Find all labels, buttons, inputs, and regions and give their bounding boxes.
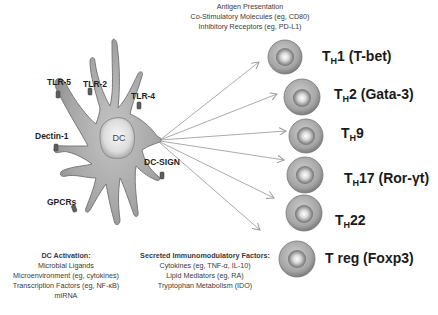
tlr2-receptor	[88, 88, 92, 95]
tcell-prefix: T	[334, 86, 343, 102]
tcell-prefix: T	[344, 170, 353, 186]
tcell-suffix: 9	[356, 125, 364, 141]
dcsign-receptor	[160, 172, 164, 179]
tcell-label-th1: TH1 (T-bet)	[322, 48, 392, 66]
dc-activation-line: miRNA	[0, 291, 132, 301]
th22-cell	[286, 195, 322, 231]
dc-activation-title: DC Activation:	[0, 251, 132, 261]
tcell-suffix: 17 (Ror-γt)	[359, 170, 429, 186]
receptor-label-dectin1: Dectin-1	[35, 131, 69, 141]
tcell-label-treg: T reg (Foxp3)	[325, 250, 414, 266]
receptor-label-tlr4: TLR-4	[131, 91, 155, 101]
receptor-label-tlr2: TLR-2	[83, 79, 107, 89]
dc-outputs-text: Antigen Presentation Co-Stimulatory Mole…	[160, 2, 340, 32]
tcell-prefix: T reg (Foxp3)	[325, 250, 414, 266]
tcell-suffix: 22	[350, 212, 366, 228]
secreted-factors-title: Secreted Immunomodulatory Factors:	[130, 251, 280, 261]
tcell-label-th2: TH2 (Gata-3)	[334, 86, 414, 104]
th17-cell	[287, 157, 323, 193]
tcell-label-th22: TH22	[335, 212, 366, 230]
dc-output-line: Co-Stimulatory Molecules (eg, CD80)	[160, 12, 340, 22]
secreted-factors-line: Lipid Mediators (eg, RA)	[130, 271, 280, 281]
dc-activation-line: Transcription Factors (eg, NF-κB)	[0, 281, 132, 291]
tcell-suffix: 1 (T-bet)	[337, 48, 391, 64]
tcell-label-th17: TH17 (Ror-γt)	[344, 170, 429, 188]
th9-cell	[289, 119, 323, 153]
tcell-label-th9: TH9	[341, 125, 364, 143]
receptor-label-gpcrs: GPCRs	[47, 197, 76, 207]
th1-cell	[268, 40, 302, 74]
receptor-label-dcsign: DC-SIGN	[144, 157, 180, 167]
dc-activation-line: Microenvironment (eg, cytokines)	[0, 271, 132, 281]
treg-cell	[279, 241, 315, 277]
dc-tcell-diagram: Antigen Presentation Co-Stimulatory Mole…	[0, 0, 438, 315]
tlr5-receptor	[56, 91, 60, 98]
tcell-prefix: T	[322, 48, 331, 64]
dc-output-line: Inhibitory Receptors (eg, PD-L1)	[160, 22, 340, 32]
secreted-factors-line: Cytokines (eg, TNF-α, IL-10)	[130, 261, 280, 271]
tcell-prefix: T	[335, 212, 344, 228]
dc-activation-block: DC Activation: Microbial Ligands Microen…	[0, 251, 132, 301]
tcell-prefix: T	[341, 125, 350, 141]
dc-nucleus-label: DC	[104, 133, 134, 143]
tcell-suffix: 2 (Gata-3)	[349, 86, 414, 102]
dc-output-line: Antigen Presentation	[160, 2, 340, 12]
dc-activation-line: Microbial Ligands	[0, 261, 132, 271]
secreted-factors-block: Secreted Immunomodulatory Factors: Cytok…	[130, 251, 280, 291]
differentiation-arrows	[160, 62, 286, 230]
tlr4-receptor	[137, 102, 141, 109]
receptor-label-tlr5: TLR-5	[47, 77, 71, 87]
dectin1-receptor	[54, 144, 58, 151]
th2-cell	[284, 79, 320, 115]
secreted-factors-line: Tryptophan Metabolism (IDO)	[130, 281, 280, 291]
